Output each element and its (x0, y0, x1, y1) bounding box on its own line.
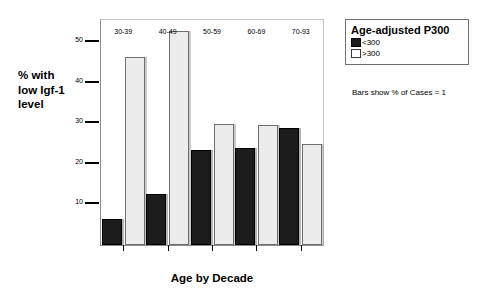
legend-item-light: >300 (351, 48, 463, 59)
bar (258, 125, 278, 245)
x-axis-tick-label: 30-39 (114, 28, 132, 35)
x-axis-tick (212, 245, 213, 251)
y-axis-title-line-2: low Igf-1 (18, 83, 92, 98)
y-axis-tick: 40 (85, 81, 99, 83)
legend: Age-adjusted P300 <300 >300 (345, 19, 469, 65)
dark-swatch-icon (351, 38, 361, 47)
chart-page: % with low Igf-1 level 102030405030-3940… (0, 0, 478, 301)
legend-item-dark-label: <300 (362, 38, 380, 47)
y-axis-tick-label: 20 (75, 158, 83, 165)
y-axis-tick: 50 (85, 40, 99, 42)
bar (302, 144, 322, 245)
bar (235, 148, 255, 245)
x-axis-tick (256, 245, 257, 251)
bar (169, 31, 189, 245)
y-axis-tick-label: 10 (75, 198, 83, 205)
legend-item-dark: <300 (351, 37, 463, 48)
light-swatch-icon (351, 49, 361, 58)
y-axis-tick: 20 (85, 162, 99, 164)
x-axis-tick (123, 245, 124, 251)
y-axis-tick: 30 (85, 121, 99, 123)
x-axis-title: Age by Decade (100, 272, 324, 284)
x-axis-tick-label: 50-59 (203, 28, 221, 35)
bar (125, 57, 145, 245)
bar (146, 194, 166, 245)
y-axis-tick-label: 40 (75, 77, 83, 84)
x-axis-tick-label: 40-49 (159, 28, 177, 35)
plot-area: 102030405030-3940-4950-5960-6970-93 (100, 19, 324, 246)
y-axis-tick: 10 (85, 202, 99, 204)
bar (191, 150, 211, 245)
bar (102, 219, 122, 245)
legend-caption: Bars show % of Cases = 1 (352, 88, 446, 97)
y-axis-title-line-3: level (18, 97, 92, 112)
x-axis-tick (168, 245, 169, 251)
legend-title: Age-adjusted P300 (351, 24, 463, 36)
y-axis-tick-label: 30 (75, 117, 83, 124)
y-axis-title: % with low Igf-1 level (18, 68, 92, 112)
y-axis-tick-label: 50 (75, 36, 83, 43)
legend-item-light-label: >300 (362, 49, 380, 58)
bar (214, 124, 234, 245)
x-axis-tick (301, 245, 302, 251)
x-axis-tick-label: 60-69 (247, 28, 265, 35)
x-axis-tick-label: 70-93 (292, 28, 310, 35)
bar (279, 128, 299, 245)
